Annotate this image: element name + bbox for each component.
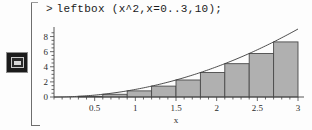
command-text[interactable]: leftbox (x^2,x=0..3,10); <box>57 3 223 15</box>
riemann-bar <box>152 86 176 97</box>
y-tick-label: 0 <box>44 92 49 102</box>
x-tick-label: 2 <box>214 103 219 113</box>
x-tick-label: 1 <box>133 103 138 113</box>
worksheet-execution-icon[interactable] <box>6 52 28 73</box>
riemann-bar <box>127 91 151 97</box>
maple-prompt: > <box>46 3 53 15</box>
riemann-bar <box>249 53 273 97</box>
riemann-bar <box>225 64 249 97</box>
x-tick-label: 3 <box>296 103 301 113</box>
bracket-bottom-tick <box>31 125 40 126</box>
x-axis-label: x <box>174 115 179 125</box>
y-tick-label: 8 <box>44 32 49 42</box>
input-line[interactable]: > leftbox (x^2,x=0..3,10); <box>46 3 222 15</box>
y-tick-label: 2 <box>44 77 49 87</box>
y-tick-label: 4 <box>44 62 49 72</box>
maple-worksheet: > leftbox (x^2,x=0..3,10); 0.511.522.530… <box>0 0 312 130</box>
worksheet-icon-frame <box>11 57 24 68</box>
x-tick-label: 2.5 <box>252 103 264 113</box>
riemann-bar <box>176 80 200 97</box>
x-tick-label: 0.5 <box>89 103 101 113</box>
y-tick-label: 6 <box>44 47 49 57</box>
worksheet-icon-screen <box>14 61 21 65</box>
riemann-bar <box>200 73 224 97</box>
bracket-vertical-bar <box>31 2 32 126</box>
x-tick-label: 1.5 <box>170 103 182 113</box>
plot-output[interactable]: 0.511.522.5302468x <box>40 18 308 128</box>
bracket-top-tick <box>31 2 38 3</box>
riemann-sum-chart: 0.511.522.5302468x <box>40 18 308 128</box>
riemann-bar <box>274 42 298 97</box>
